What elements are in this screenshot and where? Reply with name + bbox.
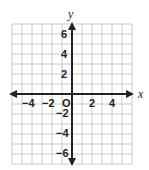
y-tick-label: 4	[61, 48, 68, 60]
coordinate-plane: x y O −4 −2 2 4 6 4 2 −2 −4 −6	[0, 0, 149, 170]
x-axis-right-arrow-icon	[126, 90, 134, 98]
x-tick-label: −2	[42, 97, 55, 109]
x-tick-label: 2	[89, 97, 95, 109]
x-tick-label: −4	[22, 97, 35, 109]
y-tick-label: 6	[61, 28, 67, 40]
y-tick-label: 2	[61, 68, 67, 80]
y-tick-label: −4	[56, 127, 69, 139]
x-axis-label: x	[137, 87, 144, 101]
y-tick-label: −2	[56, 107, 69, 119]
y-axis-top-arrow-icon	[68, 22, 76, 30]
x-axis-left-arrow-icon	[9, 90, 17, 98]
y-axis-bottom-arrow-icon	[68, 158, 76, 166]
y-axis-label: y	[67, 7, 74, 21]
y-tick-label: −6	[56, 147, 69, 159]
x-tick-label: 4	[109, 97, 116, 109]
